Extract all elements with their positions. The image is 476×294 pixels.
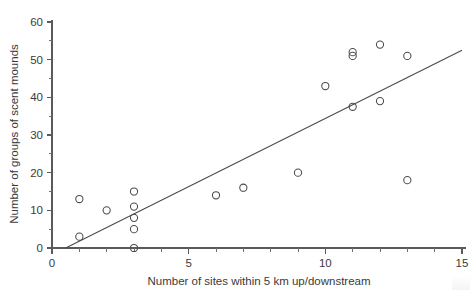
chart-canvas: 0102030405060 051015 Number of sites wit…	[0, 0, 476, 294]
data-point	[322, 82, 329, 89]
y-axis-tick-labels: 0102030405060	[30, 16, 43, 254]
y-tick-label-20: 20	[30, 167, 43, 179]
scatter-plot-figure: 0102030405060 051015 Number of sites wit…	[0, 0, 476, 294]
data-point	[130, 214, 137, 221]
data-point	[376, 41, 383, 48]
x-tick-label-15: 15	[456, 257, 469, 269]
data-point	[404, 177, 411, 184]
y-tick-label-60: 60	[30, 16, 43, 28]
data-point	[294, 169, 301, 176]
data-point	[103, 207, 110, 214]
x-axis-ticks	[52, 248, 462, 254]
x-tick-label-0: 0	[49, 257, 55, 269]
y-tick-label-10: 10	[30, 204, 43, 216]
data-point	[76, 195, 83, 202]
regression-line	[66, 50, 462, 248]
y-tick-label-30: 30	[30, 129, 43, 141]
data-point	[376, 98, 383, 105]
regression-line-segment	[66, 50, 462, 248]
x-axis-tick-labels: 051015	[49, 257, 469, 269]
y-tick-label-0: 0	[37, 242, 43, 254]
y-tick-label-50: 50	[30, 54, 43, 66]
data-point	[212, 192, 219, 199]
x-tick-label-5: 5	[185, 257, 191, 269]
data-point	[130, 188, 137, 195]
x-tick-label-10: 10	[319, 257, 332, 269]
data-point	[404, 52, 411, 59]
data-points-group	[76, 41, 411, 252]
y-tick-label-40: 40	[30, 91, 43, 103]
y-axis-ticks	[47, 22, 53, 248]
data-point	[76, 233, 83, 240]
data-point	[240, 184, 247, 191]
x-axis-title: Number of sites within 5 km up/downstrea…	[147, 275, 370, 287]
y-axis-title: Number of groups of scent mounds	[8, 44, 20, 224]
data-point	[130, 226, 137, 233]
data-point	[130, 203, 137, 210]
